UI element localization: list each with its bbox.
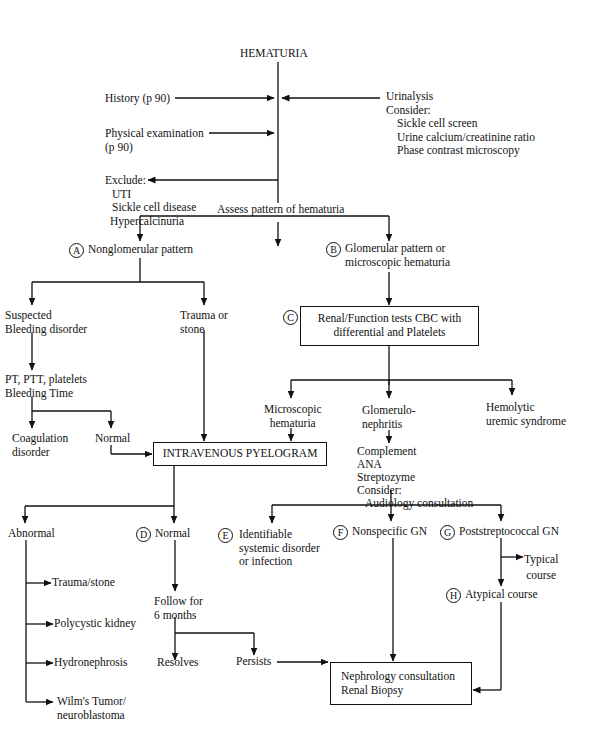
marker-a: A: [69, 243, 84, 258]
resolves-node: Resolves: [157, 656, 199, 670]
audiology-item: Audiology consultation: [357, 497, 473, 510]
tests-line: Bleeding Time: [5, 387, 87, 401]
nephrology-biopsy-box: Nephrology consultation Renal Biopsy: [330, 662, 472, 705]
node-b-line: microscopic hematuria: [345, 256, 450, 270]
marker-g: G: [440, 525, 455, 540]
node-e-identifiable: E Identifiable systemic disorder or infe…: [218, 528, 320, 569]
node-f-nonspecific: FNonspecific GN: [333, 525, 427, 540]
coag-normal-node: Normal: [95, 432, 130, 446]
coag-tests-node: PT, PTT, platelets Bleeding Time: [5, 373, 87, 400]
urinalysis-label: Urinalysis: [386, 90, 535, 104]
node-a-label: Nonglomerular pattern: [88, 243, 193, 255]
coag-line: Coagulation: [12, 432, 68, 446]
hus-line: uremic syndrome: [486, 415, 566, 429]
node-g-poststreptococcal: GPoststreptococcal GN: [440, 525, 559, 540]
physical-exam-label: Physical examination (p 90): [105, 127, 204, 154]
consider-label: Consider:: [386, 104, 535, 118]
workup-item: Streptozyme: [357, 471, 473, 484]
node-d-normal: DNormal: [136, 527, 190, 542]
consider-item: Phase contrast microscopy: [386, 144, 535, 158]
ivp-box: INTRAVENOUS PYELOGRAM: [153, 442, 327, 466]
node-h-atypical: HAtypical course: [446, 588, 538, 603]
hemolytic-uremic-node: Hemolytic uremic syndrome: [486, 401, 566, 428]
workup-item: ANA: [357, 458, 473, 471]
assess-pattern-label: Assess pattern of hematuria: [217, 203, 344, 217]
coag-line: disorder: [12, 446, 68, 460]
typical-line: course: [524, 567, 558, 583]
coagulation-disorder-node: Coagulation disorder: [12, 432, 68, 459]
history-label: History (p 90): [105, 92, 170, 106]
marker-e: E: [218, 528, 233, 543]
microscopic-hematuria-node: Microscopic hematuria: [264, 403, 321, 430]
node-d-label: Normal: [155, 527, 190, 539]
follow-line: 6 months: [154, 609, 203, 623]
abnormal-wilms: Wilm's Tumor/ neuroblastoma: [57, 695, 126, 722]
typical-course-node: Typical course: [524, 551, 558, 583]
marker-c: C: [283, 310, 298, 325]
abnormal-trauma-stone: Trauma/stone: [52, 576, 115, 590]
node-f-label: Nonspecific GN: [352, 525, 427, 537]
workup-item: Complement: [357, 445, 473, 458]
node-b-line: Glomerular pattern or: [345, 242, 450, 256]
marker-f: F: [333, 525, 348, 540]
persists-node: Persists: [236, 655, 271, 669]
bleeding-line: Bleeding disorder: [5, 323, 87, 337]
exclude-block: Exclude: UTI Sickle cell disease Hyperca…: [105, 174, 196, 228]
node-h-label: Atypical course: [465, 588, 538, 600]
wilms-line: Wilm's Tumor/: [57, 695, 126, 709]
exclude-label: Exclude:: [105, 174, 196, 188]
tests-line: PT, PTT, platelets: [5, 373, 87, 387]
bleeding-line: Suspected: [5, 309, 87, 323]
node-a-nonglomerular: ANonglomerular pattern: [69, 243, 193, 258]
micro-line: hematuria: [264, 417, 321, 431]
abnormal-node: Abnormal: [8, 527, 55, 541]
exclude-item: Sickle cell disease: [105, 201, 196, 215]
node-b-glomerular: B Glomerular pattern or microscopic hema…: [326, 242, 450, 269]
physical-exam-line: Physical examination: [105, 127, 204, 141]
box-c-line: Renal/Function tests: [318, 312, 412, 324]
suspected-bleeding-node: Suspected Bleeding disorder: [5, 309, 87, 336]
trauma-line: Trauma or: [180, 309, 228, 323]
abnormal-hydronephrosis: Hydronephrosis: [54, 656, 127, 670]
marker-b: B: [326, 242, 341, 257]
hus-line: Hemolytic: [486, 401, 566, 415]
follow-six-months-node: Follow for 6 months: [154, 595, 203, 622]
node-e-line: Identifiable: [239, 528, 320, 542]
micro-line: Microscopic: [264, 403, 321, 417]
consider-item: Sickle cell screen: [386, 117, 535, 131]
trauma-line: stone: [180, 323, 228, 337]
glomerulonephritis-node: Glomerulo- nephritis: [362, 404, 416, 431]
nephro-line: Nephrology consultation: [341, 670, 455, 682]
exclude-item: Hypercalcinuria: [105, 215, 196, 229]
marker-d: D: [136, 527, 151, 542]
renal-function-box: Renal/Function tests CBC with differenti…: [300, 306, 479, 346]
node-g-label: Poststreptococcal GN: [459, 525, 559, 537]
exclude-item: UTI: [105, 188, 196, 202]
flowchart-title: HEMATURIA: [240, 47, 308, 61]
node-e-line: or infection: [239, 555, 320, 569]
follow-line: Follow for: [154, 595, 203, 609]
gn-workup-list: Complement ANA Streptozyme Consider: Aud…: [357, 445, 473, 510]
node-e-line: systemic disorder: [239, 542, 320, 556]
gn-line: nephritis: [362, 418, 416, 432]
wilms-line: neuroblastoma: [57, 709, 126, 723]
urinalysis-block: Urinalysis Consider: Sickle cell screen …: [386, 90, 535, 158]
trauma-stone-node: Trauma or stone: [180, 309, 228, 336]
gn-line: Glomerulo-: [362, 404, 416, 418]
physical-exam-page: (p 90): [105, 141, 204, 155]
consider-item: Urine calcium/creatinine ratio: [386, 131, 535, 145]
typical-line: Typical: [524, 551, 558, 567]
workup-item: Consider:: [357, 484, 473, 497]
marker-h: H: [446, 588, 461, 603]
abnormal-polycystic: Polycystic kidney: [54, 617, 136, 631]
nephro-line: Renal Biopsy: [341, 684, 403, 696]
